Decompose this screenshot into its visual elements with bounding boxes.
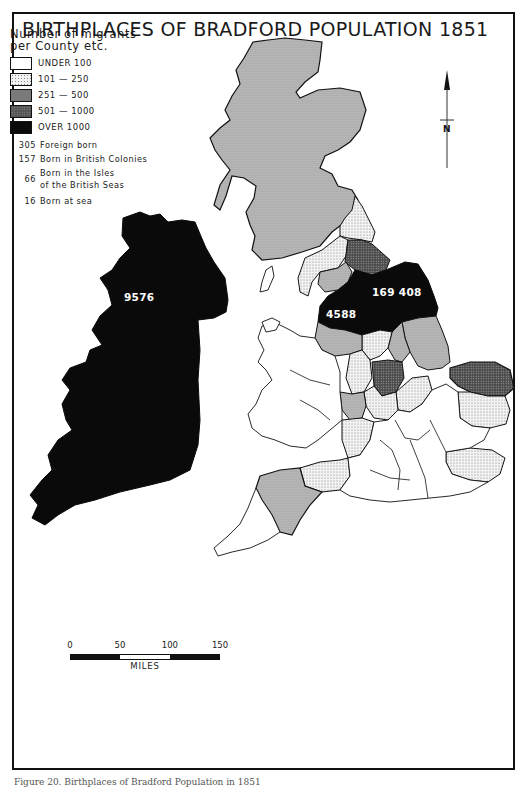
scale-tick: 100 <box>162 640 178 650</box>
label-lancashire: 4588 <box>326 308 356 320</box>
scale-tick: 0 <box>67 640 72 650</box>
count: 66 <box>10 174 36 184</box>
swatch-501-1000 <box>10 105 32 118</box>
swatch-under-100 <box>10 57 32 70</box>
legend-row-under-100: UNDER 100 <box>10 55 220 71</box>
count: 16 <box>10 196 36 206</box>
legend-row-101-250: 101 — 250 <box>10 71 220 87</box>
scale-units: MILES <box>70 661 220 671</box>
swatch-101-250 <box>10 73 32 86</box>
label-yorkshire: 169 408 <box>372 286 422 298</box>
region-norfolk <box>450 362 514 396</box>
region-worcestershire <box>340 392 366 420</box>
legend: Number of migrants per County etc. UNDER… <box>10 28 220 135</box>
region-isle-of-man <box>260 266 274 292</box>
legend-label: 251 — 500 <box>38 90 89 100</box>
legend-label: 101 — 250 <box>38 74 89 84</box>
count: 305 <box>10 140 36 150</box>
scale-tick: 50 <box>115 640 126 650</box>
born-isles-british-seas: 66 Born in the Isles of the British Seas <box>10 168 230 190</box>
figure-caption: Figure 20. Birthplaces of Bradford Popul… <box>14 777 261 787</box>
north-label: N <box>443 124 451 134</box>
scale-tick: 150 <box>212 640 228 650</box>
born-at-sea: 16Born at sea <box>10 196 230 206</box>
legend-label: UNDER 100 <box>38 58 92 68</box>
region-ireland <box>30 212 228 525</box>
label: Foreign born <box>40 140 98 150</box>
born-british-colonies: 157Born in British Colonies <box>10 154 230 164</box>
swatch-over-1000 <box>10 121 32 134</box>
label: Born in British Colonies <box>40 154 147 164</box>
label: Born at sea <box>40 196 92 206</box>
foreign-born: 305Foreign born <box>10 140 230 150</box>
north-arrow <box>440 70 454 168</box>
legend-label: 501 — 1000 <box>38 106 95 116</box>
scale-bar-graphic <box>70 654 220 660</box>
scale-ticks: 0 50 100 150 <box>70 640 220 652</box>
label-ireland: 9576 <box>124 291 154 303</box>
count: 157 <box>10 154 36 164</box>
legend-row-over-1000: OVER 1000 <box>10 119 220 135</box>
legend-row-501-1000: 501 — 1000 <box>10 103 220 119</box>
scale-bar: 0 50 100 150 MILES <box>70 640 220 671</box>
legend-label: OVER 1000 <box>38 122 90 132</box>
legend-row-251-500: 251 — 500 <box>10 87 220 103</box>
label-line2: of the British Seas <box>40 180 124 190</box>
region-durham <box>345 240 390 275</box>
legend-heading-2: per County etc. <box>10 40 220 52</box>
label-line1: Born in the Isles <box>40 168 124 178</box>
region-lincolnshire <box>402 316 450 370</box>
swatch-251-500 <box>10 89 32 102</box>
